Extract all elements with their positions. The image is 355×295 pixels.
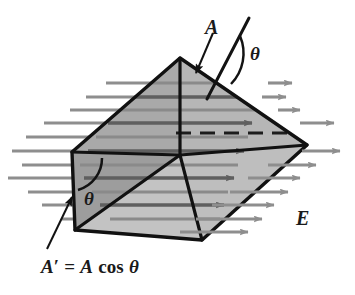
label-area-vector-A: A	[205, 17, 218, 37]
projected-area-equals: =	[64, 256, 75, 277]
projected-area-A: A	[80, 256, 93, 277]
projected-area-cos: cos	[98, 256, 123, 277]
projected-area-symbol: A	[41, 256, 54, 277]
label-angle-theta-top: θ	[250, 44, 260, 63]
label-angle-theta-left: θ	[84, 189, 94, 208]
projected-area-theta: θ	[129, 256, 139, 277]
label-electric-field-E: E	[296, 208, 309, 228]
figure-canvas	[0, 0, 355, 295]
label-projected-area: A′ = A cos θ	[41, 257, 139, 276]
pointer-arrow-A	[196, 33, 213, 73]
flux-prism-figure: A θ θ E A′ = A cos θ	[0, 0, 355, 295]
